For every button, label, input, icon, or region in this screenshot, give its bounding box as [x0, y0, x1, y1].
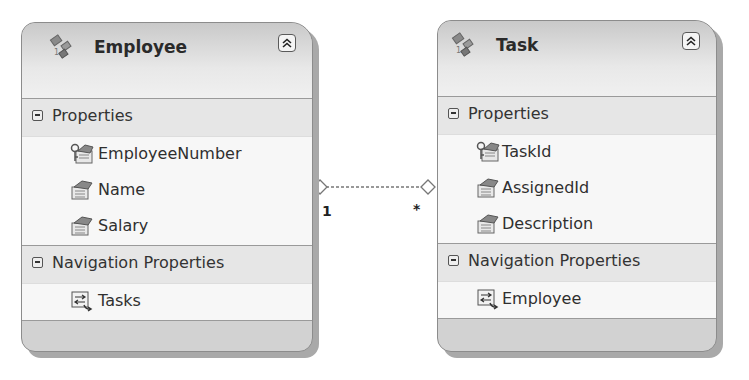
multiplicity-task-end: * [413, 201, 420, 217]
property-row[interactable]: TaskId [438, 135, 716, 171]
association-end-diamond-right [421, 180, 435, 194]
property-row[interactable]: AssignedId [438, 171, 716, 207]
entity-employee[interactable]: Employee Properties EmployeeNumber Name … [21, 22, 313, 352]
collapse-section-toggle[interactable] [448, 108, 459, 119]
property-label: AssignedId [502, 178, 589, 197]
property-label: EmployeeNumber [98, 144, 242, 163]
key-property-icon [476, 141, 500, 163]
section-label: Properties [468, 104, 549, 123]
property-label: TaskId [502, 142, 551, 161]
section-properties[interactable]: Properties [22, 99, 312, 137]
collapse-button[interactable] [682, 32, 700, 50]
collapse-section-toggle[interactable] [32, 110, 43, 121]
collapse-section-toggle[interactable] [32, 257, 43, 268]
property-icon [70, 215, 94, 237]
property-icon [70, 179, 94, 201]
property-label: Salary [98, 216, 148, 235]
multiplicity-employee-end: 1 [322, 203, 332, 219]
entity-footer [438, 319, 716, 347]
navigation-property-icon [70, 290, 94, 312]
property-label: Description [502, 214, 593, 233]
association-end-diamond-left [313, 180, 327, 194]
entity-title: Employee [94, 37, 187, 57]
double-chevron-up-icon [282, 38, 292, 48]
navigation-property-label: Employee [502, 289, 581, 308]
entity-icon [450, 31, 480, 59]
property-row[interactable]: Name [22, 173, 312, 209]
entity-header[interactable]: Task [438, 21, 716, 97]
double-chevron-up-icon [686, 36, 696, 46]
entity-task[interactable]: Task Properties TaskId AssignedId Descri… [437, 20, 717, 352]
collapse-section-toggle[interactable] [448, 255, 459, 266]
entity-footer [22, 321, 312, 349]
entity-title: Task [496, 35, 538, 55]
section-label: Navigation Properties [468, 251, 640, 270]
property-icon [476, 177, 500, 199]
navigation-property-label: Tasks [98, 291, 141, 310]
section-navigation-properties[interactable]: Navigation Properties [438, 244, 716, 282]
key-property-icon [70, 143, 94, 165]
navigation-property-row[interactable]: Tasks [22, 284, 312, 320]
property-row[interactable]: Description [438, 207, 716, 243]
section-properties[interactable]: Properties [438, 97, 716, 135]
section-label: Properties [52, 106, 133, 125]
entity-header[interactable]: Employee [22, 23, 312, 99]
property-row[interactable]: Salary [22, 209, 312, 245]
property-row[interactable]: EmployeeNumber [22, 137, 312, 173]
navigation-property-icon [476, 288, 500, 310]
property-icon [476, 213, 500, 235]
section-label: Navigation Properties [52, 253, 224, 272]
section-navigation-properties[interactable]: Navigation Properties [22, 246, 312, 284]
collapse-button[interactable] [278, 34, 296, 52]
navigation-property-row[interactable]: Employee [438, 282, 716, 318]
property-label: Name [98, 180, 145, 199]
entity-icon [48, 33, 78, 61]
